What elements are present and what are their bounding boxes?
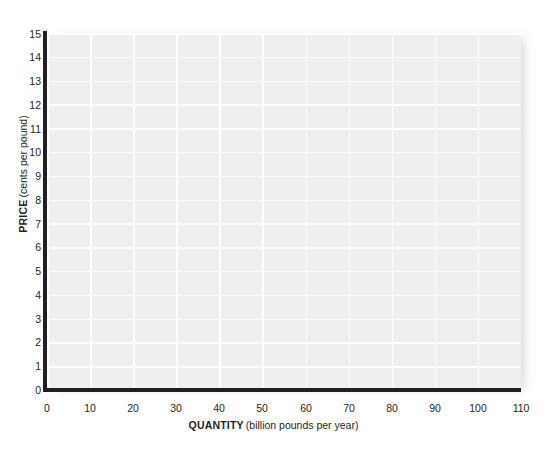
y-tick-label: 1 bbox=[7, 360, 41, 372]
x-tick-label: 40 bbox=[199, 402, 239, 414]
y-tick-label: 0 bbox=[7, 384, 41, 396]
y-tick-label: 14 bbox=[7, 51, 41, 63]
y-tick-label: 2 bbox=[7, 336, 41, 348]
x-tick-label: 20 bbox=[113, 402, 153, 414]
y-tick-label: 6 bbox=[7, 241, 41, 253]
y-tick-label: 3 bbox=[7, 313, 41, 325]
horizontal-gridlines bbox=[47, 33, 521, 390]
x-axis-title-unit: (billion pounds per year) bbox=[244, 419, 359, 431]
x-tick-label: 70 bbox=[329, 402, 369, 414]
y-axis-title-bold: PRICE bbox=[17, 200, 29, 233]
y-tick-label: 13 bbox=[7, 75, 41, 87]
x-tick-label: 50 bbox=[242, 402, 282, 414]
y-axis-line bbox=[43, 31, 47, 392]
y-axis-title: PRICE(cents per pound) bbox=[17, 109, 29, 239]
x-axis-ticks: 0 10 20 30 40 50 60 70 80 90 100 110 bbox=[0, 402, 547, 418]
vertical-gridlines bbox=[47, 33, 521, 390]
x-tick-label: 90 bbox=[415, 402, 455, 414]
x-axis-line bbox=[43, 388, 521, 392]
plot-area bbox=[47, 33, 521, 390]
y-tick-label: 15 bbox=[7, 28, 41, 40]
x-tick-label: 10 bbox=[70, 402, 110, 414]
x-tick-label: 80 bbox=[372, 402, 412, 414]
y-axis-title-unit: (cents per pound) bbox=[17, 115, 29, 199]
x-tick-label: 0 bbox=[27, 402, 67, 414]
y-tick-label: 5 bbox=[7, 265, 41, 277]
x-tick-label: 60 bbox=[286, 402, 326, 414]
y-tick-label: 4 bbox=[7, 289, 41, 301]
x-tick-label: 110 bbox=[501, 402, 541, 414]
x-axis-title-bold: QUANTITY bbox=[189, 419, 244, 431]
chart-figure: 0 1 2 3 4 5 6 7 8 9 10 11 12 13 14 15 0 … bbox=[0, 0, 547, 452]
plot-background bbox=[47, 33, 521, 390]
x-tick-label: 100 bbox=[458, 402, 498, 414]
clipped-top-text bbox=[62, 0, 262, 3]
x-tick-label: 30 bbox=[156, 402, 196, 414]
x-axis-title: QUANTITY(billion pounds per year) bbox=[0, 419, 547, 431]
